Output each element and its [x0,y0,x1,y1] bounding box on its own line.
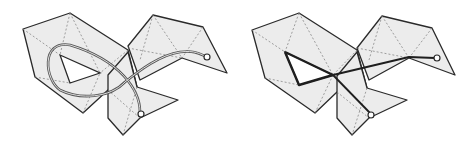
endpoint-marker [368,112,374,118]
surface-faces [252,13,455,135]
endpoint-marker [434,55,440,61]
surface-faces [23,13,227,135]
endpoint-marker [204,54,210,60]
figure-right-straight-path [237,0,474,145]
endpoint-marker [138,111,144,117]
figure-left-curved-path [0,0,237,145]
